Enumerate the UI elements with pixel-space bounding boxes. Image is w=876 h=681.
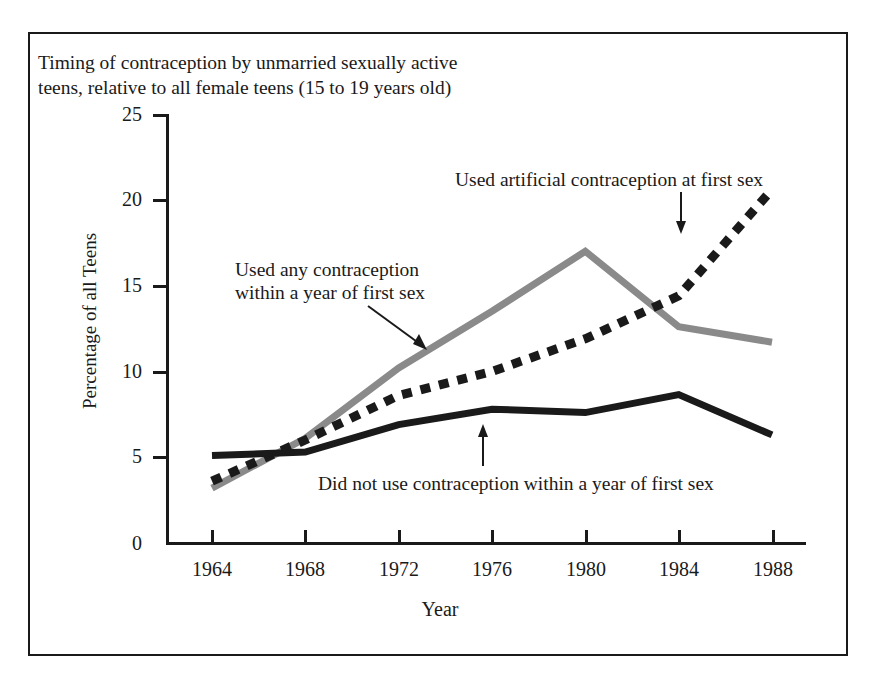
annotation-used-any-line-1: Used any contraception: [235, 258, 425, 281]
annotation-did-not-use: Did not use contraception within a year …: [318, 472, 714, 495]
arrow-any-head: [413, 334, 427, 350]
series-used-artificial-contraception: [212, 190, 772, 482]
annotation-used-artificial: Used artificial contraception at first s…: [455, 168, 763, 191]
arrow-any-shaft: [368, 306, 420, 344]
plot-area: 25 20 15 10 5 0 1964 1968 1972 1976 1980…: [0, 0, 876, 681]
annotation-used-any: Used any contraception within a year of …: [235, 258, 425, 304]
arrow-didnot-head: [478, 424, 488, 437]
series-path: [212, 190, 772, 482]
arrow-artificial-head: [676, 221, 686, 234]
data-series-layer: [0, 0, 876, 681]
figure-chart-contraception-timing: Timing of contraception by unmarried sex…: [0, 0, 876, 681]
annotation-used-any-line-2: within a year of first sex: [235, 281, 425, 304]
